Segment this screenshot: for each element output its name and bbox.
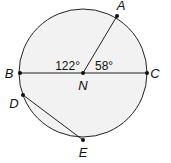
- label-c: C: [150, 66, 160, 81]
- point-e: [81, 138, 85, 142]
- point-c: [145, 71, 149, 75]
- angle-bna-label: 122°: [55, 59, 80, 73]
- label-a: A: [116, 0, 126, 13]
- point-d: [21, 93, 25, 97]
- label-b: B: [5, 66, 14, 81]
- angle-anc-label: 58°: [95, 59, 113, 73]
- label-d: D: [9, 96, 18, 111]
- label-n: N: [78, 78, 88, 93]
- point-n: [81, 71, 85, 75]
- circle-diagram: A B C N D E 122° 58°: [0, 0, 171, 163]
- point-b: [18, 71, 22, 75]
- point-a: [115, 14, 119, 18]
- label-e: E: [79, 145, 88, 160]
